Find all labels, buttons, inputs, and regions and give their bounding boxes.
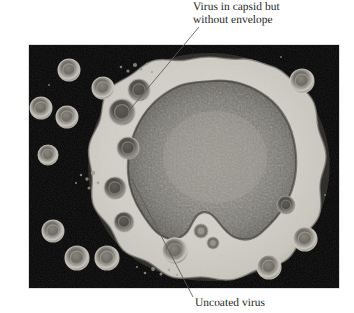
annotation-label-uncoated-virus: Uncoated virus (195, 297, 345, 310)
figure-root: Virus in capsid but without envelope Unc… (0, 0, 354, 313)
annotation-label-virus-in-capsid: Virus in capsid but without envelope (193, 1, 343, 27)
micrograph-plate (29, 45, 339, 288)
micrograph-image (29, 45, 339, 288)
film-grain-overlay (29, 45, 339, 288)
